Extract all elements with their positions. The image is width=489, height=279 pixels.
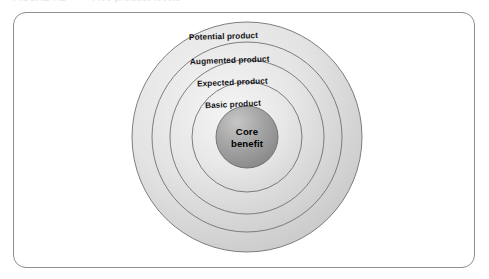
core-label-line-1: Core <box>211 126 283 138</box>
ring-label-potential-product: Potential product <box>189 31 258 42</box>
ring-label-core-benefit: Core benefit <box>211 126 283 149</box>
core-label-line-2: benefit <box>211 138 283 150</box>
figure-canvas: FIGURE 7.2 Five product levels <box>0 0 489 279</box>
